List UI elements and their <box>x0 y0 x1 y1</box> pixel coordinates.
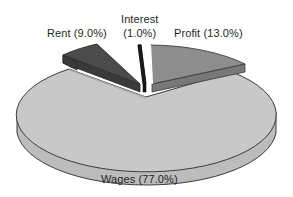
pie-label-interest: Interest(1.0%) <box>121 12 159 40</box>
pie-label-interest-line2: (1.0%) <box>121 26 159 40</box>
pie-slice-interest-top <box>138 45 146 84</box>
pie-label-interest-line1: Interest <box>121 13 159 25</box>
pie-label-wages: Wages (77.0%) <box>101 173 178 186</box>
pie-chart-3d: Rent (9.0%) Interest(1.0%) Profit (13.0%… <box>0 0 293 197</box>
pie-label-profit: Profit (13.0%) <box>174 27 243 40</box>
pie-label-rent: Rent (9.0%) <box>47 27 107 40</box>
